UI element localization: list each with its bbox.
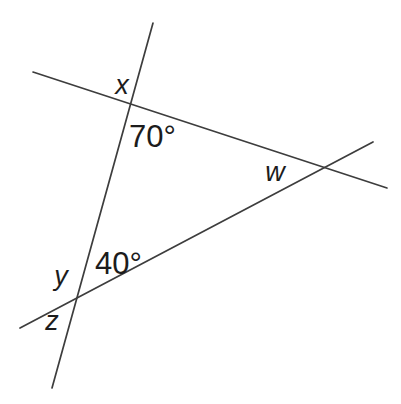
steep-transversal-line — [52, 23, 153, 388]
geometry-figure: x70°w40°yz — [0, 0, 401, 404]
angle-label-y: y — [52, 261, 69, 291]
angle-label-z: z — [44, 306, 59, 336]
angle-label-70deg: 70° — [129, 119, 176, 154]
angle-label-x: x — [113, 70, 130, 100]
lower-transversal-line — [20, 142, 373, 328]
geometry-diagram: x70°w40°yz — [0, 0, 401, 404]
angle-label-w: w — [265, 157, 286, 187]
upper-transversal-line — [33, 72, 387, 188]
angle-label-40deg: 40° — [95, 246, 142, 281]
